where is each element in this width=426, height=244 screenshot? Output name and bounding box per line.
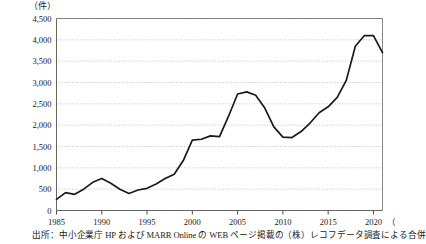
x-tick-label: 2015	[320, 217, 337, 227]
x-tick-label: 1990	[93, 217, 110, 227]
data-series-group	[57, 36, 383, 200]
source-note: 出所：中小企業庁 HP および MARR Online の WEB ページ掲載の…	[32, 229, 426, 241]
x-tick-marks-group	[57, 211, 374, 215]
y-tick-label: 0	[47, 206, 51, 216]
x-tick-label: 2005	[229, 217, 246, 227]
plot-frame	[57, 19, 383, 211]
x-tick-labels-group: 19851990199520002005201020152020	[48, 217, 382, 227]
y-tick-labels-group: 05001,0001,5002,0002,5003,0003,5004,0004…	[32, 14, 51, 216]
x-tick-label: 2000	[184, 217, 201, 227]
y-tick-label: 1,000	[32, 163, 51, 173]
x-tick-label: 2020	[365, 217, 382, 227]
gridlines-group	[57, 19, 383, 190]
line-chart-svg: 05001,0001,5002,0002,5003,0003,5004,0004…	[0, 0, 395, 228]
y-tick-label: 4,500	[32, 14, 51, 24]
y-tick-label: 500	[39, 184, 52, 194]
x-tick-label: 1985	[48, 217, 65, 227]
x-tick-label: 2010	[274, 217, 291, 227]
y-tick-label: 3,000	[32, 78, 51, 88]
y-tick-label: 1,500	[32, 142, 51, 152]
chart-plot-area: 05001,0001,5002,0002,5003,0003,5004,0004…	[0, 0, 395, 228]
x-axis-unit-label: （年）	[387, 217, 395, 227]
y-tick-label: 3,500	[32, 56, 51, 66]
y-tick-label: 4,000	[32, 35, 51, 45]
data-line-series	[57, 36, 383, 200]
y-tick-label: 2,500	[32, 99, 51, 109]
y-tick-label: 2,000	[32, 120, 51, 130]
x-tick-label: 1995	[139, 217, 156, 227]
